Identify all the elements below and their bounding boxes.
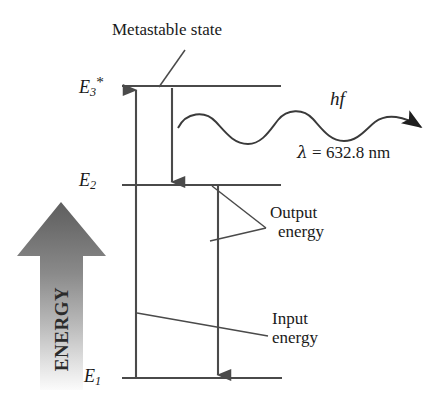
e2-base: E — [79, 170, 90, 190]
e1-subscript: 1 — [95, 374, 101, 388]
output-energy-line1: Output — [270, 203, 324, 222]
wavelength-unit: nm — [368, 143, 390, 162]
input-energy-label: Inputenergy — [272, 309, 318, 347]
energy-direction-arrow: ENERGY — [14, 200, 110, 392]
output-energy-label: Outputenergy — [270, 203, 324, 241]
energy-arrow-shape — [14, 200, 110, 392]
photon-energy-label: hf — [330, 88, 345, 109]
energy-level-label-E1: E1 — [84, 366, 101, 389]
callout-leader-lines — [137, 50, 268, 336]
energy-level-label-E3: E3* — [79, 73, 104, 100]
output-energy-line2: energy — [270, 222, 324, 241]
transition-arrows — [136, 88, 218, 378]
input-leader-line — [137, 313, 268, 336]
input-energy-line2: energy — [272, 328, 318, 347]
output-leader-line-upper — [212, 186, 266, 228]
lambda-symbol: λ — [297, 142, 308, 162]
energy-level-label-E2: E2 — [79, 170, 96, 193]
e3-base: E — [79, 77, 90, 97]
wavelength-equals: = — [312, 143, 322, 162]
metastable-state-label: Metastable state — [112, 20, 222, 39]
laser-energy-level-diagram: ENERGY Metastable state E3* E2 E1 hf λ =… — [0, 0, 444, 408]
wavelength-label: λ = 632.8 nm — [297, 143, 390, 162]
emitted-photon-wave — [178, 111, 421, 144]
e1-base: E — [84, 366, 95, 386]
e2-subscript: 2 — [90, 178, 96, 192]
metastable-leader-line — [159, 50, 185, 87]
e3-superscript: * — [96, 73, 104, 90]
input-energy-line1: Input — [272, 309, 318, 328]
wavelength-value: 632.8 — [326, 143, 364, 162]
